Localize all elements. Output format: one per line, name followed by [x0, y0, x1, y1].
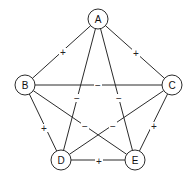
node-c: C: [162, 75, 182, 95]
edge-sign-label-b-c: −: [95, 80, 101, 91]
edge-sign-label-a-b: +: [60, 47, 66, 58]
node-d: D: [51, 150, 71, 170]
edge-sign-label-b-e: −: [82, 121, 88, 132]
edge-sign-label-b-d: +: [41, 123, 47, 134]
edge-a-d: [64, 29, 96, 151]
edge-sign-label-c-d: −: [110, 121, 116, 132]
edges-layer: [29, 26, 167, 160]
node-label: A: [95, 14, 102, 25]
edge-sign-label-a-e: −: [116, 93, 122, 104]
node-label: D: [57, 155, 64, 166]
edge-sign-label-c-e: +: [151, 121, 157, 132]
edge-a-e: [101, 29, 133, 151]
edge-sign-label-d-e: +: [96, 156, 102, 167]
node-label: C: [168, 80, 175, 91]
node-a: A: [88, 9, 108, 29]
signed-graph-diagram: ++−−−+−−++ ABCDE: [0, 0, 195, 183]
node-label: E: [132, 155, 139, 166]
node-b: B: [15, 75, 35, 95]
node-label: B: [22, 80, 29, 91]
node-e: E: [125, 150, 145, 170]
edge-sign-label-a-d: −: [74, 93, 80, 104]
edge-sign-label-a-c: +: [133, 48, 139, 59]
